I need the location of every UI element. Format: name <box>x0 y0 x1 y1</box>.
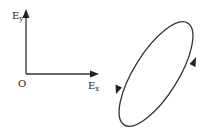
arrow-up-icon <box>190 57 197 67</box>
polarization-diagram: Ey Ex O <box>0 0 209 135</box>
x-axis-label: Ex <box>88 80 99 93</box>
axes: Ey Ex O <box>12 9 99 93</box>
x-axis-arrowhead-icon <box>90 71 99 78</box>
ellipse-path <box>106 11 207 135</box>
polarization-ellipse <box>106 11 207 135</box>
y-axis-label: Ey <box>12 10 23 23</box>
arrow-down-icon <box>116 85 123 95</box>
origin-label: O <box>18 78 26 89</box>
y-axis-arrowhead-icon <box>23 9 30 18</box>
